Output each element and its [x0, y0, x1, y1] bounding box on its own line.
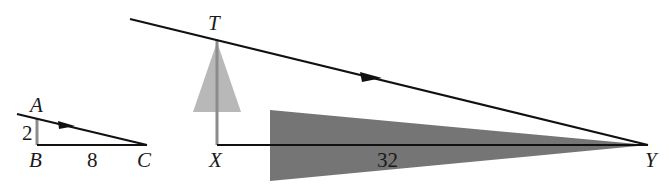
small-triangle: [17, 114, 147, 145]
similar-triangles-diagram: A 2 B 8 C T X 32 Y: [0, 0, 669, 189]
label-y: Y: [645, 148, 659, 172]
label-bc-length: 8: [87, 148, 98, 172]
label-b: B: [29, 148, 42, 172]
label-a: A: [28, 93, 43, 117]
label-t: T: [208, 11, 221, 35]
label-xy-length: 32: [377, 148, 398, 172]
label-x: X: [208, 148, 223, 172]
label-c: C: [137, 148, 152, 172]
label-ab-length: 2: [22, 121, 33, 145]
